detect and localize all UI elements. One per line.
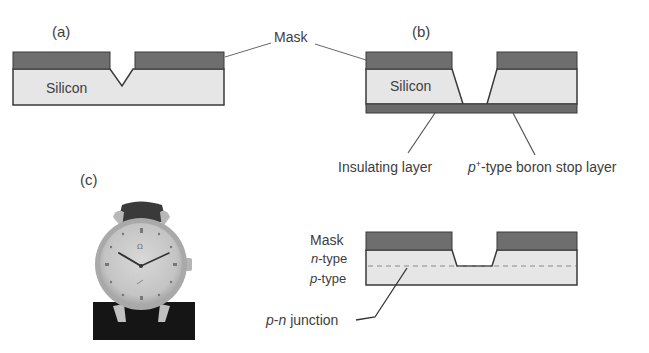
panel-d: Mask (d) n-type p-type p-n junction bbox=[265, 231, 577, 328]
panel-c: (c) bbox=[80, 171, 195, 340]
mask-left bbox=[366, 52, 452, 69]
mask-left bbox=[13, 52, 110, 69]
panel-a: (a) Silicon bbox=[13, 23, 224, 105]
silicon-label: Silicon bbox=[390, 78, 431, 94]
n-type-label: n-type bbox=[311, 251, 347, 266]
mask-right bbox=[497, 232, 577, 250]
panel-c-label: (c) bbox=[80, 171, 98, 188]
insulating-layer-label: Insulating layer bbox=[338, 159, 433, 175]
leader-line-b bbox=[315, 44, 366, 60]
panel-b-label: (b) bbox=[412, 23, 430, 40]
leader-line-a bbox=[225, 43, 271, 57]
mask-label-d: Mask bbox=[310, 232, 344, 248]
mask-label: Mask bbox=[274, 29, 308, 45]
panel-a-label: (a) bbox=[52, 23, 70, 40]
mask-right bbox=[497, 52, 577, 69]
pn-junction-label: p-n junction bbox=[265, 312, 338, 328]
leader-line-insulating bbox=[408, 113, 435, 153]
silicon-layer bbox=[13, 69, 224, 105]
p-type-label: p-type bbox=[309, 271, 346, 286]
watch-photo: Ω bbox=[93, 202, 195, 341]
insulating-boron-layer bbox=[366, 104, 577, 113]
svg-text:Ω: Ω bbox=[137, 243, 143, 251]
silicon-layer bbox=[366, 250, 577, 285]
mask-right bbox=[135, 52, 224, 69]
shared-mask-annotation: Mask bbox=[225, 29, 366, 60]
panel-b: (b) Silicon Insulating layer p+-type bor… bbox=[338, 23, 617, 175]
mems-fabrication-figure: (a) Silicon Mask (b) Silicon Insulating … bbox=[0, 0, 649, 353]
boron-stop-layer-label: p+-type boron stop layer bbox=[467, 159, 617, 175]
mask-left bbox=[366, 232, 452, 250]
leader-line-stop bbox=[513, 113, 535, 155]
silicon-label: Silicon bbox=[46, 80, 87, 96]
